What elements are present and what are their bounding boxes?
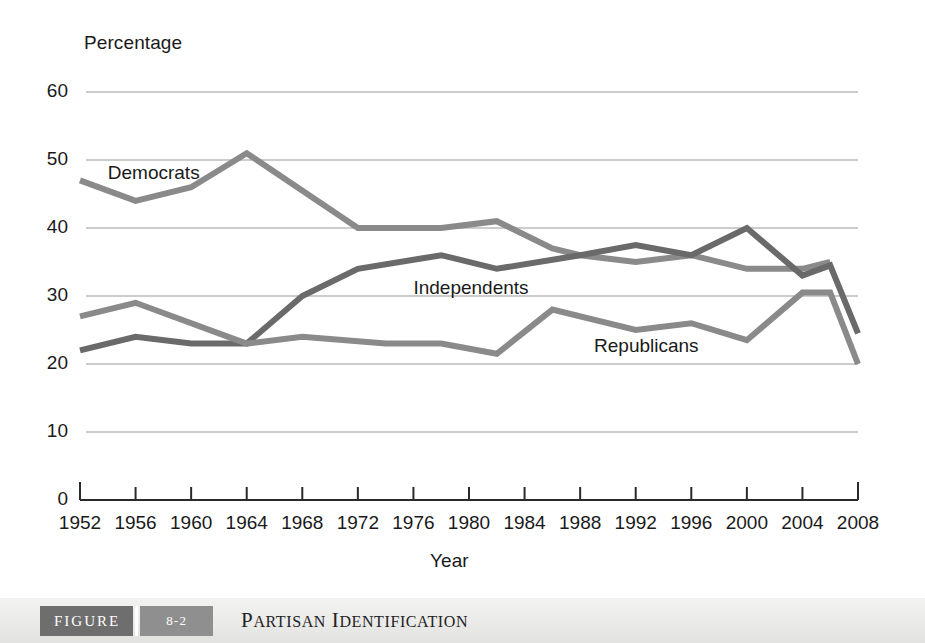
caption-figure-label: FIGURE: [40, 606, 133, 636]
x-tick-label-1992: 1992: [608, 512, 664, 534]
x-tick-label-2004: 2004: [774, 512, 830, 534]
figure-caption-bar: FIGURE 8-2 PARTISAN IDENTIFICATION: [0, 598, 925, 643]
series-label-independents: Independents: [413, 277, 528, 299]
y-tick-label-30: 30: [26, 284, 68, 306]
caption-title-word: IDENTIFICATION: [332, 608, 468, 632]
x-tick-label-2000: 2000: [719, 512, 775, 534]
chart-plot-area: [0, 0, 925, 643]
x-tick-label-1972: 1972: [330, 512, 386, 534]
x-tick-label-1960: 1960: [163, 512, 219, 534]
axis-ticks-group: [80, 482, 858, 500]
x-tick-label-1996: 1996: [663, 512, 719, 534]
x-tick-label-1956: 1956: [108, 512, 164, 534]
y-tick-label-20: 20: [26, 352, 68, 374]
x-tick-label-1968: 1968: [274, 512, 330, 534]
series-label-democrats: Democrats: [108, 162, 200, 184]
y-tick-label-50: 50: [26, 148, 68, 170]
caption-figure-number: 8-2: [140, 606, 213, 636]
series-label-republicans: Republicans: [594, 335, 699, 357]
y-tick-label-10: 10: [26, 420, 68, 442]
caption-title: PARTISAN IDENTIFICATION: [241, 608, 468, 633]
x-tick-label-1976: 1976: [385, 512, 441, 534]
x-tick-label-1988: 1988: [552, 512, 608, 534]
y-tick-label-60: 60: [26, 80, 68, 102]
x-tick-label-1980: 1980: [441, 512, 497, 534]
caption-title-word: PARTISAN: [241, 608, 326, 632]
x-tick-label-1952: 1952: [52, 512, 108, 534]
series-lines-group: [80, 153, 858, 364]
x-axis-title: Year: [430, 550, 469, 572]
y-tick-label-40: 40: [26, 216, 68, 238]
x-tick-label-1964: 1964: [219, 512, 275, 534]
figure-container: Percentage 0102030405060 195219561960196…: [0, 0, 925, 643]
x-tick-label-1984: 1984: [497, 512, 553, 534]
x-tick-label-2008: 2008: [830, 512, 886, 534]
y-tick-label-0: 0: [26, 488, 68, 510]
series-line-republicans: [80, 293, 858, 364]
caption-divider: [135, 606, 138, 636]
